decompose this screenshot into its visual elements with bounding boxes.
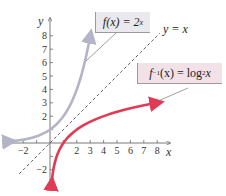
- x-tick-label: 5: [115, 145, 120, 156]
- x-tick-label: 8: [155, 145, 160, 156]
- y-tick-label: 3: [42, 97, 47, 108]
- x-tick-label: 6: [128, 145, 133, 156]
- y-tick-label: 6: [42, 57, 47, 68]
- x-tick-label: 7: [141, 145, 146, 156]
- y-tick-label: 5: [42, 71, 47, 82]
- f-label-exponent: x: [140, 18, 144, 27]
- finv-label-mid: (x) = log: [160, 66, 202, 81]
- f-label-text: f(x) = 2: [103, 15, 140, 30]
- series-group: [10, 33, 160, 183]
- y-axis-label: y: [37, 14, 44, 28]
- x-tick-label: −2: [18, 145, 29, 156]
- y-tick-label: 4: [42, 84, 47, 95]
- y-tick-label: 2: [42, 111, 47, 122]
- x-tick-label: 4: [101, 145, 106, 156]
- finv-label-x: x: [206, 66, 211, 81]
- inverse-function-label: f−1(x) = log2 x: [137, 63, 222, 84]
- x-axis-label: x: [165, 145, 172, 159]
- y-tick-label: −2: [36, 164, 47, 175]
- finv-leader-line: [158, 88, 188, 101]
- identity-line-label: y = x: [163, 22, 188, 37]
- x-tick-label: 2: [74, 145, 79, 156]
- x-tick-label: 3: [88, 145, 93, 156]
- finv-label-sup: −1: [152, 69, 159, 77]
- y-tick-label: 7: [42, 44, 47, 55]
- y-tick-label: 8: [42, 30, 47, 41]
- f-function-label: f(x) = 2x: [95, 12, 150, 33]
